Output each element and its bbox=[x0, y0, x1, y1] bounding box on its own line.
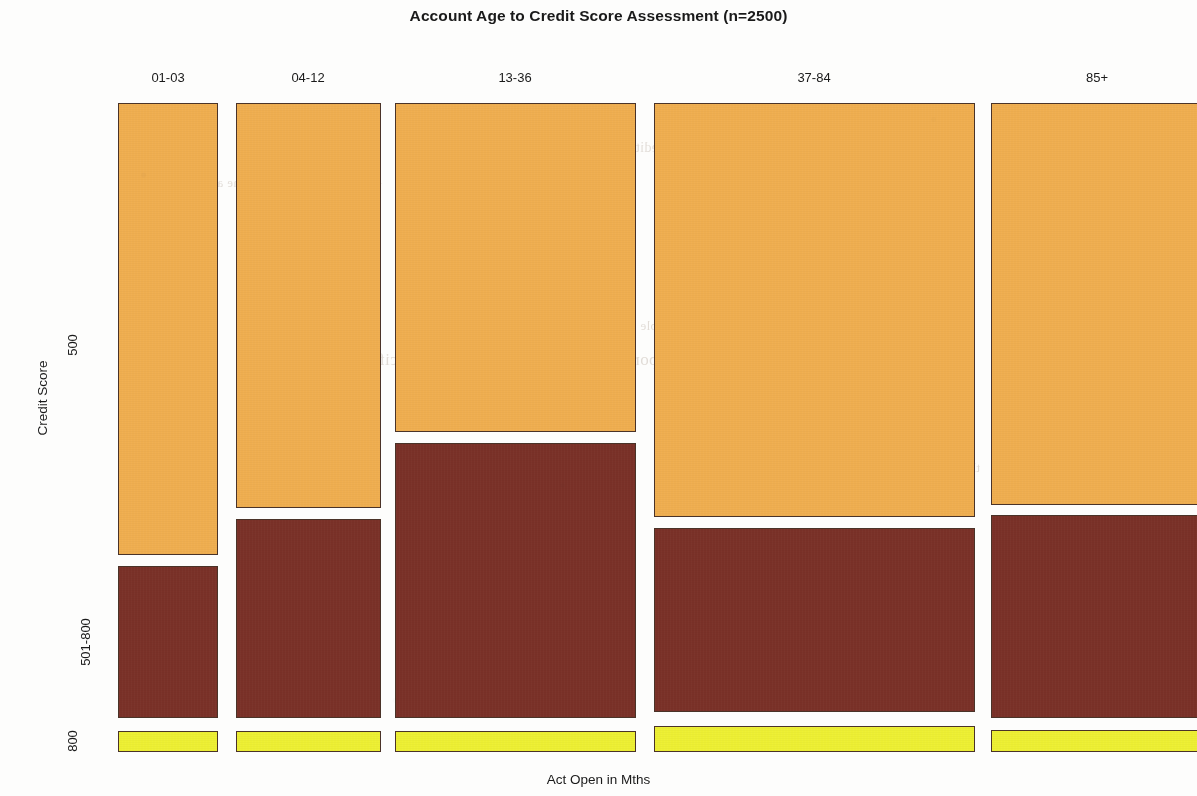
x-axis-tick-label: 37-84 bbox=[797, 70, 830, 85]
mosaic-tile bbox=[236, 731, 381, 752]
x-axis-title: Act Open in Mths bbox=[0, 772, 1197, 787]
mosaic-tile bbox=[654, 528, 975, 712]
y-axis-tick-label: 500 bbox=[65, 334, 80, 356]
x-axis-tick-label: 85+ bbox=[1086, 70, 1108, 85]
mosaic-tile bbox=[236, 103, 381, 508]
mosaic-tile bbox=[395, 731, 636, 752]
mosaic-tile bbox=[654, 103, 975, 517]
x-axis-tick-label: 01-03 bbox=[151, 70, 184, 85]
y-axis-tick-label: 800 bbox=[65, 730, 80, 752]
mosaic-tile bbox=[395, 443, 636, 718]
mosaic-tile bbox=[991, 103, 1197, 505]
x-axis-tick-label: 04-12 bbox=[291, 70, 324, 85]
y-axis-tick-label: 501-800 bbox=[78, 618, 93, 666]
mosaic-tile bbox=[118, 731, 218, 752]
mosaic-tile bbox=[991, 515, 1197, 718]
y-axis-title: Credit Score bbox=[35, 360, 50, 435]
mosaic-tile bbox=[991, 730, 1197, 752]
mosaic-tile bbox=[118, 103, 218, 555]
mosaic-tile bbox=[654, 726, 975, 752]
chart-title: Account Age to Credit Score Assessment (… bbox=[0, 7, 1197, 25]
x-axis-tick-label: 13-36 bbox=[498, 70, 531, 85]
mosaic-tile bbox=[236, 519, 381, 718]
mosaic-tile bbox=[118, 566, 218, 718]
mosaic-tile bbox=[395, 103, 636, 432]
mosaic-chart-figure: Account Age to Credit Score Assessment (… bbox=[0, 0, 1197, 796]
